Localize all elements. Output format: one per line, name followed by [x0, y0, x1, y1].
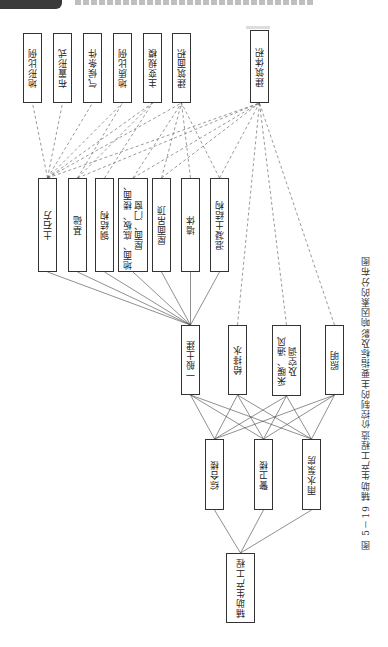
building-label: 警卫楼	[258, 460, 269, 490]
building-label: 雨水泵房	[306, 455, 317, 495]
cost-item-label: 基础	[72, 215, 83, 235]
connector-line	[48, 103, 260, 178]
factor-box: 建筑体积	[250, 30, 269, 103]
building-label: 综合楼	[209, 460, 220, 490]
cost-item-box: 地面、底板、楼面、 屋面、门窗	[118, 178, 148, 272]
connector-line	[162, 103, 182, 178]
connector-line	[182, 103, 220, 178]
cost-item-box: 土石方	[38, 178, 57, 272]
solid-connectors	[48, 272, 335, 553]
factor-box: 建筑面积	[172, 33, 191, 103]
discipline-box: 一般土建	[181, 325, 200, 395]
factor-box: 主变规模	[143, 33, 162, 103]
root-box: 辅助生产工程	[226, 553, 255, 623]
discipline-label: 一般土建	[185, 340, 196, 380]
cost-item-label: 墙体	[185, 215, 196, 235]
connector-line	[191, 395, 264, 439]
cost-item-label: 屋面吊顶	[156, 205, 167, 245]
cost-item-label: 土石方	[42, 210, 53, 240]
building-box: 综合楼	[205, 439, 224, 510]
connector-line	[33, 103, 48, 178]
connector-line	[260, 103, 335, 325]
discipline-box: 采暖、通风 及空调	[272, 325, 301, 396]
factor-box: 地质比例	[113, 33, 132, 103]
connector-line	[78, 103, 123, 178]
connector-line	[191, 395, 215, 439]
connector-line	[238, 103, 260, 325]
factor-label: 主变规模	[147, 48, 158, 88]
connector-line	[162, 103, 260, 178]
connector-line	[191, 395, 312, 439]
connector-line	[260, 103, 287, 325]
discipline-label: 采暖、通风 及空调	[276, 336, 298, 386]
cost-item-label: 混凝土结构	[214, 200, 225, 250]
factor-box: 地形比例	[23, 33, 42, 103]
factor-label: 建筑体积	[254, 47, 265, 87]
connector-line	[48, 103, 182, 178]
connector-line	[133, 272, 191, 325]
building-box: 警卫楼	[254, 439, 273, 510]
connector-line	[78, 272, 191, 325]
connector-line	[133, 103, 182, 178]
connector-line	[162, 272, 191, 325]
connector-line	[105, 103, 153, 178]
connector-line	[48, 103, 153, 178]
factor-label: 建筑面积	[176, 48, 187, 88]
connector-line	[78, 103, 260, 178]
cost-item-label: 钢结构	[99, 210, 110, 240]
factor-label: 气候条件	[87, 48, 98, 88]
discipline-label: 给排水	[232, 345, 243, 375]
cost-item-box: 钢结构	[95, 178, 114, 272]
discipline-box: 照明	[325, 325, 344, 395]
connector-line	[220, 103, 260, 178]
cost-item-box: 屋面吊顶	[152, 178, 171, 272]
connector-line	[287, 396, 312, 439]
connector-line	[312, 395, 335, 439]
connector-line	[241, 510, 312, 553]
factor-box: 布置形式	[53, 33, 72, 103]
cost-item-box: 基础	[68, 178, 87, 272]
connector-line	[48, 103, 93, 178]
factor-box: 气候条件	[83, 33, 102, 103]
connector-line	[48, 272, 191, 325]
discipline-box: 给排水	[228, 325, 247, 395]
connector-line	[133, 103, 260, 178]
connector-line	[241, 510, 264, 553]
cost-item-box: 墙体	[181, 178, 200, 272]
building-box: 雨水泵房	[302, 439, 321, 510]
factor-label: 布置形式	[57, 48, 68, 88]
cost-item-label: 地面、底板、楼面、 屋面、门窗	[122, 180, 144, 270]
connector-line	[182, 103, 191, 178]
connector-line	[48, 103, 63, 178]
connector-line	[48, 103, 123, 178]
discipline-label: 照明	[329, 350, 340, 370]
figure-caption: 图 5－19 辅助生产工程造价控制的主要指标及影响因素的分布图	[358, 90, 372, 550]
connector-line	[191, 272, 220, 325]
factor-label: 地形比例	[27, 48, 38, 88]
factor-label: 地质比例	[117, 48, 128, 88]
connector-line	[215, 510, 241, 553]
root-label: 辅助生产工程	[235, 558, 246, 618]
cost-item-box: 混凝土结构	[210, 178, 229, 272]
connector-line	[105, 272, 191, 325]
